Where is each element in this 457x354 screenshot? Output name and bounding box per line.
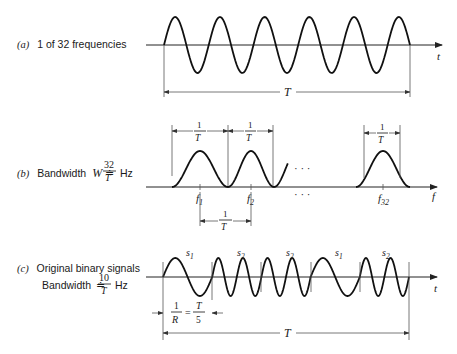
panel-c-label-line1: (c) Original binary signals bbox=[17, 262, 140, 275]
ellipsis-lower: · · · bbox=[294, 188, 311, 200]
symbol-label: s2 bbox=[237, 247, 245, 261]
fsk-diagram: (a) 1 of 32 frequencies t T (b) Bandwidt… bbox=[0, 0, 457, 354]
bandwidth-unit-c: Hz bbox=[115, 279, 128, 291]
band-width-fraction-1: 1 T bbox=[194, 120, 206, 143]
ellipsis-upper: · · · bbox=[294, 162, 311, 174]
svg-text:1: 1 bbox=[380, 122, 385, 132]
svg-text:32: 32 bbox=[104, 159, 114, 170]
svg-text:T: T bbox=[196, 300, 203, 311]
freq-label-f32: f32 bbox=[378, 192, 389, 207]
symbol-label: s1 bbox=[335, 247, 343, 261]
f-axis-label: f bbox=[432, 190, 437, 202]
span-label-T-a: T bbox=[284, 85, 292, 99]
bit-duration-label: 1 R = T 5 bbox=[171, 300, 205, 325]
freq-label-f2: f2 bbox=[247, 192, 254, 207]
svg-text:R: R bbox=[171, 314, 178, 325]
t-axis-label-c: t bbox=[434, 282, 438, 294]
spectral-lobes bbox=[172, 151, 410, 187]
spacing-fraction: 1 T bbox=[219, 209, 232, 232]
symbol-label: s1 bbox=[186, 247, 194, 261]
panel-c-label-line2: Bandwidth ≐ bbox=[42, 279, 105, 291]
panel-a-label: (a) 1 of 32 frequencies bbox=[17, 38, 126, 51]
panel-a: (a) 1 of 32 frequencies t T bbox=[17, 17, 442, 99]
band-width-fraction-2: 1 T bbox=[245, 120, 256, 143]
t-axis-label-a: t bbox=[437, 50, 441, 62]
band-width-fraction-32: 1 T bbox=[377, 122, 388, 145]
svg-text:=: = bbox=[185, 307, 191, 318]
svg-text:T: T bbox=[378, 135, 384, 145]
svg-text:T: T bbox=[195, 133, 201, 143]
symbol-label: s2 bbox=[286, 247, 294, 261]
svg-text:1: 1 bbox=[174, 301, 179, 311]
panel-b-label: (b) Bandwidth W ≐ bbox=[17, 166, 114, 180]
panel-b: (b) Bandwidth W ≐ 32 T Hz f 1 T bbox=[17, 120, 437, 232]
bandwidth-unit-b: Hz bbox=[120, 167, 133, 179]
svg-text:10: 10 bbox=[99, 272, 109, 283]
svg-text:T: T bbox=[246, 133, 252, 143]
svg-text:1: 1 bbox=[197, 120, 202, 130]
panel-c: (c) Original binary signals Bandwidth ≐ … bbox=[17, 247, 438, 340]
bandwidth-fraction-c: 10 T bbox=[98, 272, 111, 296]
svg-text:1: 1 bbox=[223, 209, 228, 219]
svg-text:T: T bbox=[101, 285, 108, 296]
span-label-T-c: T bbox=[284, 326, 292, 340]
symbol-label: s2 bbox=[382, 247, 390, 261]
svg-text:5: 5 bbox=[196, 315, 201, 325]
freq-label-f1: f1 bbox=[196, 192, 203, 207]
svg-text:T: T bbox=[221, 222, 227, 232]
bandwidth-fraction-b: 32 T bbox=[103, 159, 116, 183]
svg-text:1: 1 bbox=[248, 120, 253, 130]
